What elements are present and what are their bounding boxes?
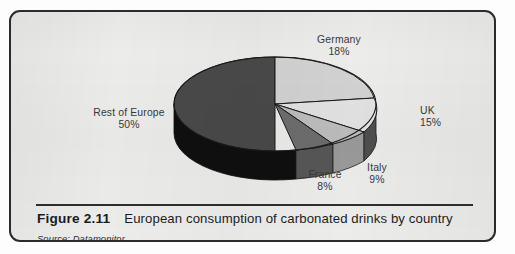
slice-label-italy: Italy 9% xyxy=(356,162,398,187)
slice-label-italy-value: 9% xyxy=(356,174,398,186)
slice-label-france-value: 8% xyxy=(297,181,353,193)
slice-label-germany-value: 18% xyxy=(302,46,376,58)
pie-chart-area: Germany 18% UK 15% Italy 9% France 8% Re… xyxy=(11,12,494,202)
figure-caption-text: European consumption of carbonated drink… xyxy=(124,211,453,226)
source-name: Datamonitor. xyxy=(73,233,128,244)
figure-frame: Germany 18% UK 15% Italy 9% France 8% Re… xyxy=(9,10,496,242)
slice-label-rest-of-europe-value: 50% xyxy=(78,119,180,131)
figure-source: Source: Datamonitor. xyxy=(37,233,127,244)
slice-label-france: France 8% xyxy=(297,169,353,194)
slice-label-rest-of-europe-name: Rest of Europe xyxy=(78,107,180,119)
source-prefix: Source: xyxy=(37,233,70,244)
slice-label-uk-value: 15% xyxy=(420,117,466,129)
caption-divider xyxy=(36,204,473,206)
slice-label-germany-name: Germany xyxy=(302,34,376,46)
figure-number: Figure 2.11 xyxy=(37,211,110,226)
slice-label-uk-name: UK xyxy=(420,105,466,117)
slice-label-germany: Germany 18% xyxy=(302,34,376,59)
pie-top-faces xyxy=(174,57,377,151)
slice-label-uk: UK 15% xyxy=(420,105,466,130)
slice-label-rest-of-europe: Rest of Europe 50% xyxy=(78,107,180,132)
slice-label-italy-name: Italy xyxy=(356,162,398,174)
figure-screenshot: Germany 18% UK 15% Italy 9% France 8% Re… xyxy=(0,0,515,254)
slice-top-germany xyxy=(275,57,374,104)
figure-caption-row: Figure 2.11 European consumption of carb… xyxy=(37,211,477,231)
slice-label-france-name: France xyxy=(297,169,353,181)
